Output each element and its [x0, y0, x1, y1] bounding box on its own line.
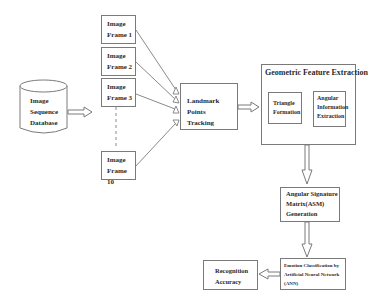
angular-label-line: Angular: [317, 94, 345, 103]
triangle-formation-box: Triangle Formation: [268, 92, 302, 124]
angular-label-line: Extraction: [317, 112, 345, 121]
frame-label-line: Image: [107, 51, 135, 62]
ann-label-line: Artificial Neural Network: [284, 270, 345, 279]
recognition-label-line: Recognition: [215, 265, 257, 276]
triangle-label-line: Triangle: [273, 99, 301, 108]
db-to-frames-arrow: [68, 107, 92, 117]
frame-label-line: Image: [107, 19, 135, 30]
frame-label-line: Frame 3: [107, 93, 135, 104]
frame-label-line: Image: [107, 82, 135, 93]
image-frame-1-box: Image Frame 1: [101, 15, 136, 44]
frame3-arrow: [136, 94, 175, 109]
geometric-title: Geometric Feature Extraction: [265, 68, 368, 78]
ann-classification-box: Emotion Classification by Artificial Neu…: [280, 258, 346, 290]
frame-label-line: Frame 1: [107, 30, 135, 41]
angular-label-line: Information: [317, 103, 345, 112]
asm-label-line: Generation: [286, 209, 339, 219]
image-frame-3-box: Image Frame 3: [101, 78, 136, 107]
geometric-feature-extraction-box: Geometric Feature Extraction Triangle Fo…: [261, 64, 356, 145]
frame-label-line: Frame 10: [107, 166, 135, 188]
triangle-label-line: Formation: [273, 108, 301, 117]
database-label-line: Sequence: [30, 107, 66, 118]
frame-label-line: Image: [107, 155, 135, 166]
landmark-points-tracking-box: Landmark Points Tracking: [180, 83, 238, 130]
image-frame-2-box: Image Frame 2: [101, 47, 136, 76]
image-frame-10-box: Image Frame 10: [101, 151, 136, 180]
recognition-accuracy-box: Recognition Accuracy: [203, 260, 258, 290]
database-label-line: Image: [30, 96, 66, 107]
asm-to-ann-arrow: [302, 222, 312, 257]
database-label: Image Sequence Database: [30, 96, 66, 129]
asm-generation-box: Angular Signature Matrix(ASM) Generation: [280, 187, 340, 222]
geometric-to-asm-arrow: [302, 145, 312, 184]
frame-label-line: Frame 2: [107, 62, 135, 73]
angular-information-extraction-box: Angular Information Extraction: [313, 91, 346, 127]
ann-label-line: (ANN): [284, 279, 345, 288]
database-label-line: Database: [30, 118, 66, 129]
landmark-to-geometric-arrow: [238, 102, 259, 112]
asm-label-line: Angular Signature: [286, 189, 339, 199]
ann-to-recognition-arrow: [259, 269, 280, 279]
landmark-label-line: Tracking: [187, 118, 237, 129]
landmark-label-line: Landmark Points: [187, 96, 237, 118]
frame10-arrow: [135, 124, 175, 167]
recognition-label-line: Accuracy: [215, 276, 257, 287]
asm-label-line: Matrix(ASM): [286, 199, 339, 209]
ann-label-line: Emotion Classification by: [284, 261, 345, 270]
